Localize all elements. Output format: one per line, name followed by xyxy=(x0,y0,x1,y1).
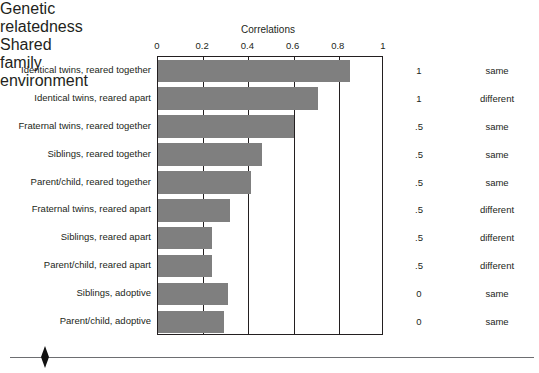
bar-row xyxy=(158,224,382,252)
column-header-genetic-relatedness: Genetic relatedness xyxy=(0,0,72,36)
bar xyxy=(158,227,212,250)
bar-row xyxy=(158,308,382,336)
chart-title: Correlations xyxy=(218,24,318,35)
bar-row xyxy=(158,280,382,308)
x-tick-label-4: 0.8 xyxy=(323,40,353,51)
genetic-relatedness-value: .5 xyxy=(383,149,455,160)
bar xyxy=(158,171,251,194)
category-label: Siblings, reared apart xyxy=(0,231,151,242)
shared-family-environment-value: same xyxy=(455,288,539,299)
genetic-relatedness-value: 1 xyxy=(383,65,455,76)
bar xyxy=(158,115,294,138)
category-label: Parent/child, reared apart xyxy=(0,259,151,270)
bar-row xyxy=(158,113,382,141)
genetic-relatedness-value: .5 xyxy=(383,121,455,132)
bar-row xyxy=(158,57,382,85)
genetic-relatedness-value: 0 xyxy=(383,316,455,327)
x-tick-label-2: 0.4 xyxy=(232,40,262,51)
x-axis-tick-labels: 00.20.40.60.81 xyxy=(0,40,539,54)
genetic-relatedness-value: .5 xyxy=(383,204,455,215)
shared-family-environment-value: same xyxy=(455,316,539,327)
bar xyxy=(158,143,262,166)
diamond-ornament-icon xyxy=(38,346,52,368)
bar xyxy=(158,283,228,306)
shared-family-environment-value: different xyxy=(455,204,539,215)
genetic-relatedness-value: 1 xyxy=(383,93,455,104)
bar xyxy=(158,87,318,110)
category-label: Fraternal twins, reared apart xyxy=(0,203,151,214)
shared-family-environment-value: same xyxy=(455,121,539,132)
bar xyxy=(158,255,212,278)
bar-row xyxy=(158,169,382,197)
category-label: Fraternal twins, reared together xyxy=(0,120,151,131)
category-label: Parent/child, adoptive xyxy=(0,315,151,326)
bar-row xyxy=(158,141,382,169)
shared-family-environment-value: different xyxy=(455,232,539,243)
shared-family-environment-value: different xyxy=(455,260,539,271)
x-tick-label-3: 0.6 xyxy=(278,40,308,51)
bar xyxy=(158,60,350,83)
footer-rule xyxy=(10,357,534,358)
column-header-genetic-line2: relatedness xyxy=(0,18,72,36)
shared-family-environment-value: same xyxy=(455,149,539,160)
bar xyxy=(158,199,230,222)
x-tick-label-0: 0 xyxy=(142,40,172,51)
genetic-relatedness-value: .5 xyxy=(383,260,455,271)
genetic-relatedness-value: 0 xyxy=(383,288,455,299)
category-label: Parent/child, reared together xyxy=(0,176,151,187)
x-tick-label-1: 0.2 xyxy=(187,40,217,51)
column-header-genetic-line1: Genetic xyxy=(0,0,72,18)
category-label: Siblings, adoptive xyxy=(0,287,151,298)
category-label: Identical twins, reared apart xyxy=(0,92,151,103)
category-label: Siblings, reared together xyxy=(0,148,151,159)
x-tick-label-5: 1 xyxy=(368,40,398,51)
genetic-relatedness-value: .5 xyxy=(383,232,455,243)
correlation-bar-chart-figure: Correlations Genetic relatedness Shared … xyxy=(0,0,539,373)
bar-row xyxy=(158,197,382,225)
bar-row xyxy=(158,252,382,280)
shared-family-environment-value: same xyxy=(455,65,539,76)
bar-row xyxy=(158,85,382,113)
plot-area xyxy=(157,56,383,335)
shared-family-environment-value: same xyxy=(455,177,539,188)
bar xyxy=(158,311,224,334)
category-label: Identical twins, reared together xyxy=(0,64,151,75)
shared-family-environment-value: different xyxy=(455,93,539,104)
genetic-relatedness-value: .5 xyxy=(383,177,455,188)
